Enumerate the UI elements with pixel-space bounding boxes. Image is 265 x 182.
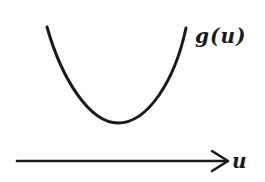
diagram: g(u) u [0,0,265,182]
curve-label: g(u) [195,24,246,48]
axis-label: u [232,149,247,173]
convex-curve [47,27,186,123]
